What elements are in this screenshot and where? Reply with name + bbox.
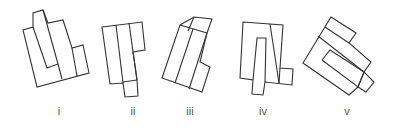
figure-iii: [162, 17, 212, 92]
figure-ii: [102, 22, 145, 97]
figure-iv: [240, 22, 293, 95]
label-iii: iii: [186, 106, 193, 117]
label-i: i: [58, 106, 60, 117]
figure-v: [303, 17, 374, 95]
label-iv: iv: [259, 106, 267, 117]
label-ii: ii: [131, 106, 136, 117]
label-v: v: [344, 106, 350, 117]
figure-i: [23, 10, 89, 87]
